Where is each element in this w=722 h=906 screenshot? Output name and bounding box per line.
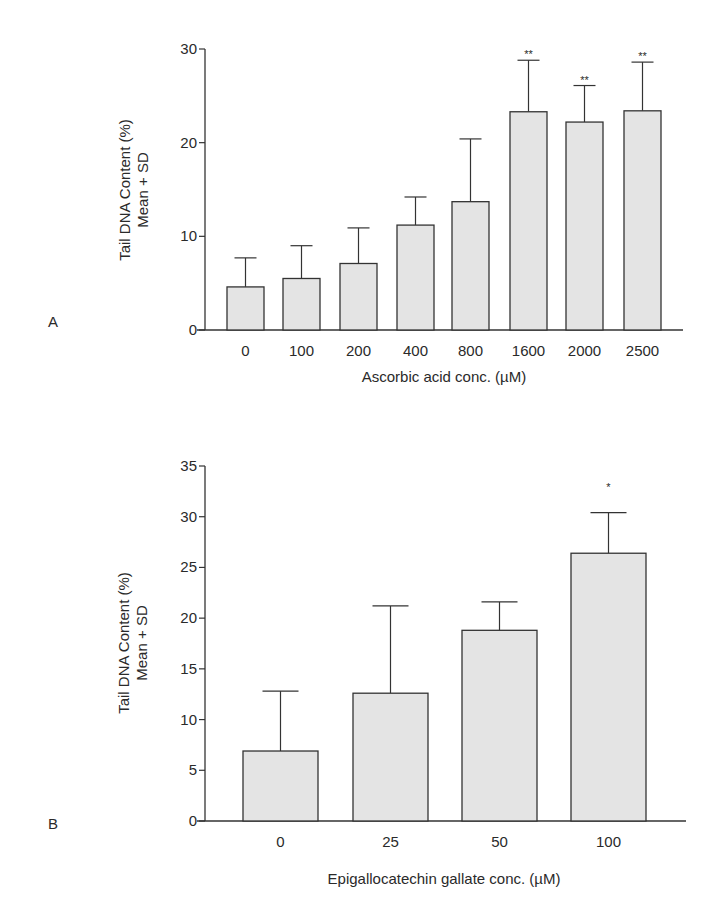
x-tick-label: 2500 xyxy=(626,342,659,359)
x-axis-label-a: Ascorbic acid conc. (µM) xyxy=(362,368,527,385)
x-tick-label: 0 xyxy=(276,833,284,850)
bar xyxy=(227,287,264,330)
y-axis-label-b: Tail DNA Content (%) Mean + SD xyxy=(115,572,150,714)
y-tick-label: 20 xyxy=(180,609,197,626)
bar xyxy=(624,111,661,330)
x-tick-label: 25 xyxy=(382,833,399,850)
bar xyxy=(510,112,547,330)
x-tick-label: 800 xyxy=(458,342,483,359)
significance-marker: ** xyxy=(638,50,647,62)
significance-marker: ** xyxy=(524,48,533,60)
x-tick-label: 200 xyxy=(346,342,371,359)
y-tick-label: 10 xyxy=(180,227,197,244)
y-axis-title-b: Tail DNA Content (%) xyxy=(115,572,132,714)
y-tick-label: 20 xyxy=(180,134,197,151)
y-axis-title-a: Tail DNA Content (%) xyxy=(116,119,133,261)
x-tick-label: 1600 xyxy=(512,342,545,359)
y-tick-label: 10 xyxy=(180,711,197,728)
y-tick-label: 5 xyxy=(189,761,197,778)
x-tick-label: 0 xyxy=(241,342,249,359)
y-tick-label: 15 xyxy=(180,660,197,677)
y-tick-label: 25 xyxy=(180,558,197,575)
y-axis-subtitle-b: Mean + SD xyxy=(133,605,150,681)
chart-panel-a: 010203001002004008001600**2000**2500** xyxy=(180,40,683,359)
bar xyxy=(283,278,320,330)
bar xyxy=(353,693,428,821)
bar xyxy=(462,630,537,821)
panel-label-a: A xyxy=(48,313,58,330)
bar xyxy=(340,263,377,330)
bar xyxy=(566,122,603,330)
y-tick-label: 35 xyxy=(180,457,197,474)
x-tick-label: 2000 xyxy=(568,342,601,359)
bar xyxy=(243,751,318,821)
bar xyxy=(571,553,646,821)
x-tick-label: 100 xyxy=(596,833,621,850)
y-axis-label-a: Tail DNA Content (%) Mean + SD xyxy=(116,119,151,261)
x-tick-label: 100 xyxy=(289,342,314,359)
significance-marker: * xyxy=(606,481,611,493)
chart-panel-b: 0510152025303502550100* xyxy=(180,457,686,850)
significance-marker: ** xyxy=(580,74,589,86)
bar xyxy=(452,202,489,330)
y-tick-label: 30 xyxy=(180,508,197,525)
bar xyxy=(397,225,434,330)
y-tick-label: 30 xyxy=(180,40,197,57)
y-tick-label: 0 xyxy=(189,321,197,338)
x-tick-label: 400 xyxy=(403,342,428,359)
figure: 010203001002004008001600**2000**2500** 0… xyxy=(0,0,722,906)
x-tick-label: 50 xyxy=(491,833,508,850)
y-tick-label: 0 xyxy=(189,812,197,829)
x-axis-label-b: Epigallocatechin gallate conc. (µM) xyxy=(328,870,561,887)
panel-label-b: B xyxy=(48,815,58,832)
y-axis-subtitle-a: Mean + SD xyxy=(134,152,151,228)
